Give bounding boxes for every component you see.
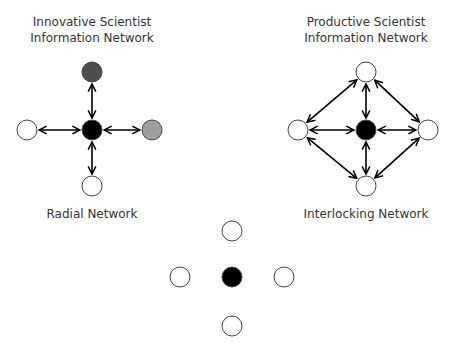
- bottom-node-right: [274, 267, 294, 287]
- bottom-node-center: [222, 267, 242, 287]
- left-node-bottom: [82, 176, 102, 196]
- right-node-bottom: [356, 176, 376, 196]
- left-node-left: [17, 120, 37, 140]
- interlocking-edge-left-top: [307, 80, 357, 122]
- bottom-node-top: [222, 221, 242, 241]
- network-nodes: [17, 62, 438, 336]
- left-node-center: [82, 120, 102, 140]
- left-node-right: [142, 120, 162, 140]
- interlocking-edge-bottom-left: [307, 138, 356, 179]
- bottom-node-left: [170, 267, 190, 287]
- right-node-right: [418, 120, 438, 140]
- right-node-left: [288, 120, 308, 140]
- bottom-node-bottom: [222, 316, 242, 336]
- right-node-center: [356, 120, 376, 140]
- right-node-top: [356, 62, 376, 82]
- interlocking-edge-top-right: [375, 80, 419, 122]
- left-node-top: [82, 62, 102, 82]
- interlocking-edge-right-bottom: [375, 138, 419, 178]
- network-diagram-canvas: [0, 0, 452, 348]
